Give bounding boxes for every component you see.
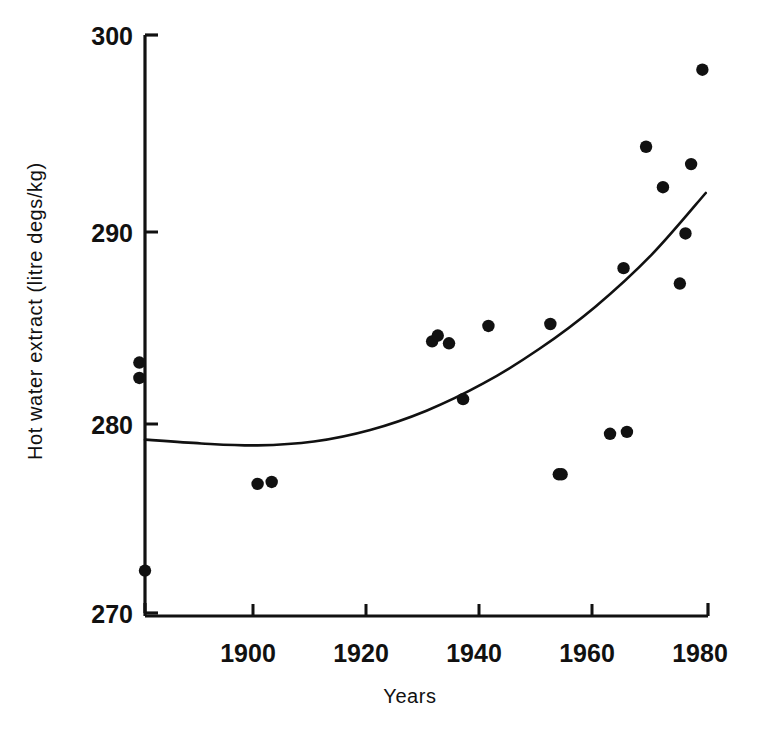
x-tick-label-1920: 1920: [333, 639, 389, 667]
scatter-plot-svg: 300 290 280 270 1900 1920 1940 1960 1980…: [0, 0, 761, 734]
data-point: [251, 478, 263, 490]
data-point: [617, 262, 629, 274]
data-point: [696, 63, 708, 75]
data-point: [544, 318, 556, 330]
y-tick-label-280: 280: [91, 411, 133, 439]
x-tick-label-1960: 1960: [559, 639, 615, 667]
data-point: [133, 372, 145, 384]
data-point: [621, 426, 633, 438]
data-point: [457, 393, 469, 405]
x-axis-title: Years: [383, 685, 436, 707]
data-point: [443, 337, 455, 349]
x-tick-label-1940: 1940: [446, 639, 502, 667]
data-point: [139, 564, 151, 576]
data-point-layer: [133, 63, 708, 576]
y-tick-label-290: 290: [91, 219, 133, 247]
y-tick-label-300: 300: [91, 22, 133, 50]
data-point: [133, 356, 145, 368]
chart-figure: 300 290 280 270 1900 1920 1940 1960 1980…: [0, 0, 761, 734]
data-point: [640, 141, 652, 153]
data-point: [604, 428, 616, 440]
x-tick-label-1980: 1980: [672, 639, 728, 667]
data-point: [674, 277, 686, 289]
data-point: [657, 181, 669, 193]
y-tick-label-270: 270: [91, 600, 133, 628]
fitted-trend-curve: [145, 193, 706, 445]
data-point: [555, 468, 567, 480]
data-point: [679, 227, 691, 239]
x-tick-label-1900: 1900: [220, 639, 276, 667]
data-point: [432, 329, 444, 341]
data-point: [482, 320, 494, 332]
y-axis-title: Hot water extract (litre degs/kg): [24, 162, 46, 460]
data-point: [265, 476, 277, 488]
data-point: [685, 158, 697, 170]
